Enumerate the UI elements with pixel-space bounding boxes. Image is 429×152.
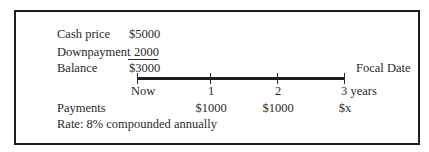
timeline-axis: [137, 77, 345, 80]
tick-label-now: Now: [131, 84, 155, 98]
tick-now: [137, 73, 138, 84]
payment-year-1: $1000: [195, 101, 226, 115]
rate-text: Rate: 8% compounded annually: [57, 117, 217, 131]
cash-price-label: Cash price: [57, 27, 110, 41]
balance-label: Balance: [57, 61, 97, 75]
tick-3: [344, 73, 345, 84]
tick-1: [210, 73, 211, 84]
tick-label-2: 2: [275, 84, 281, 98]
tick-2: [277, 73, 278, 84]
downpayment-value: 2000: [134, 45, 159, 59]
tick-label-1: 1: [208, 84, 214, 98]
payment-year-3: $x: [339, 101, 352, 115]
cash-price-value: $5000: [129, 27, 160, 41]
downpayment-label: Downpayment: [57, 45, 131, 59]
tick-label-3-years: 3 years: [341, 84, 377, 98]
focal-date-label: Focal Date: [356, 61, 411, 75]
payment-year-2: $1000: [262, 101, 293, 115]
subtotal-rule: [128, 59, 158, 60]
balance-value: $3000: [129, 61, 160, 75]
payments-label: Payments: [57, 101, 106, 115]
